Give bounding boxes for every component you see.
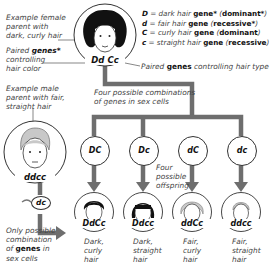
- offspring-3-label: Fair,curlyhair: [183, 237, 201, 265]
- gene-legend: D = dark hair gene* (dominant*) d = fair…: [142, 9, 269, 47]
- female-parent: Dd Cc: [73, 3, 137, 67]
- gamete-dc-lower: dc: [227, 136, 257, 166]
- offspring-3: ddCc: [172, 192, 212, 232]
- gamete-dc-mixed: Dc: [129, 136, 159, 166]
- offspring-1-label: Dark,curlyhair: [84, 237, 104, 265]
- gametes-caption: Four possible combinations of genes in s…: [94, 88, 195, 106]
- offspring-4-label: Fair,straighthair: [232, 237, 261, 265]
- offspring-2: Ddcc: [123, 192, 163, 232]
- male-gamete-caption: Only possible combination of genes in se…: [6, 226, 56, 263]
- offspring-4: ddcc: [221, 192, 261, 232]
- gamete-dc-upper: DC: [80, 136, 110, 166]
- legend-item: c = straight hair gene (recessive): [142, 38, 269, 48]
- legend-item: C = curly hair gene (dominant): [142, 28, 269, 38]
- legend-item: d = fair hair gene (recessive*): [142, 19, 269, 29]
- male-parent: ddcc: [3, 120, 67, 184]
- hair-color-genes-caption: Paired genes* controlling hair color: [6, 46, 61, 74]
- male-caption: Example male parent with fair, straight …: [6, 84, 65, 112]
- male-genotype: ddcc: [15, 172, 55, 182]
- offspring-1: DdCc: [74, 192, 114, 232]
- female-caption: Example female parent with dark, curly h…: [6, 13, 66, 41]
- offspring-caption: Four possible offspring: [156, 163, 189, 191]
- male-gamete: dc: [31, 196, 51, 210]
- offspring-2-label: Dark,straighthair: [133, 237, 162, 265]
- legend-item: D = dark hair gene* (dominant*): [142, 9, 269, 19]
- hair-type-genes-caption: Paired genes controlling hair type: [141, 62, 269, 71]
- female-genotype: Dd Cc: [85, 55, 125, 65]
- gamete-dc-fair-curly: dC: [178, 136, 208, 166]
